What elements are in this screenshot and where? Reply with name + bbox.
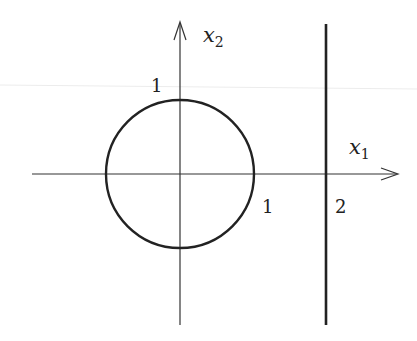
x1-axis xyxy=(32,168,398,180)
diagram-canvas: x2 x1 1 1 2 xyxy=(0,0,417,341)
x1-axis-label: x1 xyxy=(349,135,370,162)
tick-label-x2-one: 1 xyxy=(151,75,162,96)
x2-axis-label: x2 xyxy=(203,23,224,50)
tick-label-x1-two: 2 xyxy=(335,196,346,217)
tick-label-x1-one: 1 xyxy=(262,196,273,217)
scan-artifact-line xyxy=(0,85,417,89)
